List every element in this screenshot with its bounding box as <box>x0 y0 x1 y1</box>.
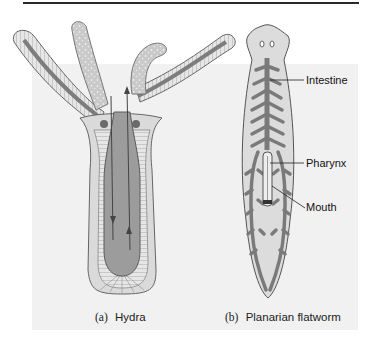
caption-hydra-title: Hydra <box>115 311 146 323</box>
figure-illustration <box>0 0 374 344</box>
label-mouth: Mouth <box>306 201 337 213</box>
label-intestine: Intestine <box>306 74 348 86</box>
caption-planarian-title: Planarian flatworm <box>246 311 341 323</box>
label-pharynx: Pharynx <box>306 157 346 169</box>
caption-hydra: (a) Hydra <box>95 311 146 323</box>
hydra-illustration <box>13 22 235 294</box>
planarian-illustration <box>242 25 294 298</box>
caption-planarian-letter: (b) <box>225 311 238 323</box>
caption-planarian: (b) Planarian flatworm <box>225 311 341 323</box>
caption-hydra-letter: (a) <box>95 311 108 323</box>
